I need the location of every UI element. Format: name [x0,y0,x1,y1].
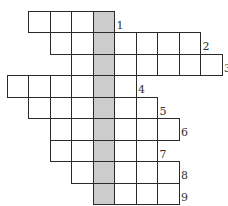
crossword-cell[interactable] [50,11,73,34]
crossword-cell[interactable] [136,161,159,184]
crossword-cell[interactable] [50,118,73,141]
crossword-cell[interactable] [114,140,137,163]
crossword-cell[interactable] [71,54,94,77]
key-column-cell[interactable] [93,32,116,55]
crossword-grid: 123456789 [0,0,228,205]
crossword-cell[interactable] [114,54,137,77]
crossword-cell[interactable] [7,75,30,98]
crossword-cell[interactable] [136,118,159,141]
crossword-cell[interactable] [50,32,73,55]
crossword-cell[interactable] [114,118,137,141]
crossword-cell[interactable] [136,183,159,206]
crossword-cell[interactable] [200,54,223,77]
crossword-cell[interactable] [157,118,180,141]
crossword-cell[interactable] [28,11,51,34]
crossword-cell[interactable] [157,54,180,77]
crossword-cell[interactable] [71,161,94,184]
crossword-cell[interactable] [157,32,180,55]
crossword-cell[interactable] [157,161,180,184]
crossword-cell[interactable] [136,140,159,163]
key-column-cell[interactable] [93,183,116,206]
crossword-cell[interactable] [71,118,94,141]
crossword-cell[interactable] [136,97,159,120]
clue-number: 8 [181,170,188,181]
clue-number: 2 [203,41,210,52]
clue-number: 7 [160,149,167,160]
crossword-cell[interactable] [71,97,94,120]
crossword-cell[interactable] [50,97,73,120]
key-column-cell[interactable] [93,118,116,141]
key-column-cell[interactable] [93,97,116,120]
crossword-cell[interactable] [114,32,137,55]
crossword-cell[interactable] [114,75,137,98]
crossword-cell[interactable] [71,32,94,55]
crossword-cell[interactable] [136,32,159,55]
crossword-cell[interactable] [136,54,159,77]
key-column-cell[interactable] [93,11,116,34]
crossword-cell[interactable] [50,75,73,98]
clue-number: 1 [117,20,124,31]
crossword-cell[interactable] [114,183,137,206]
crossword-cell[interactable] [28,75,51,98]
key-column-cell[interactable] [93,75,116,98]
key-column-cell[interactable] [93,140,116,163]
crossword-cell[interactable] [179,54,202,77]
clue-number: 4 [138,84,145,95]
crossword-cell[interactable] [157,183,180,206]
clue-number: 5 [160,106,167,117]
crossword-cell[interactable] [71,75,94,98]
clue-number: 9 [181,192,188,203]
crossword-cell[interactable] [71,11,94,34]
key-column-cell[interactable] [93,54,116,77]
crossword-cell[interactable] [50,140,73,163]
clue-number: 3 [224,63,228,74]
crossword-cell[interactable] [28,97,51,120]
key-column-cell[interactable] [93,161,116,184]
crossword-cell[interactable] [114,97,137,120]
crossword-cell[interactable] [114,161,137,184]
crossword-cell[interactable] [71,140,94,163]
clue-number: 6 [181,127,188,138]
crossword-cell[interactable] [179,32,202,55]
